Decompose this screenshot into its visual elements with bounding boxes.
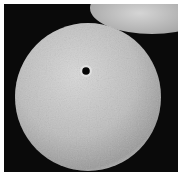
pollen-micrograph [4,4,178,172]
micrograph-frame [4,4,178,172]
